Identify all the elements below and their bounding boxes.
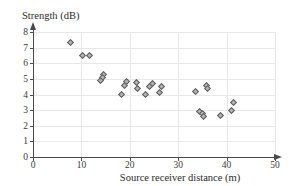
x-tick-label: 10 <box>69 160 93 171</box>
data-point-marker <box>118 91 125 98</box>
gridline-vertical <box>178 32 179 157</box>
x-axis-title: Source receiver distance (m) <box>0 172 300 183</box>
gridline-horizontal <box>33 126 275 127</box>
y-axis-line <box>33 28 34 157</box>
y-axis-arrow-icon <box>30 22 36 30</box>
x-tick-label: 0 <box>21 160 45 171</box>
x-tick-label: 20 <box>118 160 142 171</box>
data-point-marker <box>204 85 211 92</box>
y-tick-mark <box>30 126 33 127</box>
y-tick-label: 5 <box>8 74 28 84</box>
y-tick-label: 7 <box>8 43 28 53</box>
data-point-marker <box>67 39 74 46</box>
data-point-marker <box>217 112 224 119</box>
data-point-marker <box>228 107 235 114</box>
gridline-horizontal <box>33 110 275 111</box>
y-tick-label: 2 <box>8 121 28 131</box>
gridline-horizontal <box>33 48 275 49</box>
y-tick-mark <box>30 141 33 142</box>
y-tick-mark <box>30 32 33 33</box>
gridline-horizontal <box>33 32 275 33</box>
gridline-vertical <box>227 32 228 157</box>
gridline-horizontal <box>33 79 275 80</box>
x-axis-line <box>33 157 276 158</box>
data-point-marker <box>79 52 86 59</box>
x-tick-label: 50 <box>263 160 287 171</box>
data-point-marker <box>200 113 207 120</box>
data-point-marker <box>134 85 141 92</box>
y-tick-mark <box>30 95 33 96</box>
x-tick-mark <box>275 158 276 161</box>
gridline-horizontal <box>33 95 275 96</box>
x-tick-mark <box>33 158 34 161</box>
x-tick-mark <box>227 158 228 161</box>
y-tick-mark <box>30 79 33 80</box>
scatter-chart-figure: Strength (dB) Source receiver distance (… <box>0 0 300 186</box>
y-axis-title: Strength (dB) <box>22 10 79 21</box>
data-point-marker <box>86 52 93 59</box>
y-tick-mark <box>30 110 33 111</box>
y-tick-label: 4 <box>8 90 28 100</box>
gridline-horizontal <box>33 63 275 64</box>
y-tick-label: 3 <box>8 105 28 115</box>
data-point-marker <box>142 91 149 98</box>
gridline-horizontal <box>33 141 275 142</box>
y-tick-label: 1 <box>8 136 28 146</box>
y-tick-label: 8 <box>8 27 28 37</box>
y-tick-mark <box>30 63 33 64</box>
x-tick-mark <box>178 158 179 161</box>
gridline-vertical <box>130 32 131 157</box>
x-tick-mark <box>81 158 82 161</box>
x-tick-label: 30 <box>166 160 190 171</box>
x-tick-label: 40 <box>215 160 239 171</box>
y-tick-mark <box>30 48 33 49</box>
x-tick-mark <box>130 158 131 161</box>
plot-area <box>33 32 275 157</box>
data-point-marker <box>230 99 237 106</box>
gridline-vertical <box>275 32 276 157</box>
y-tick-label: 6 <box>8 58 28 68</box>
